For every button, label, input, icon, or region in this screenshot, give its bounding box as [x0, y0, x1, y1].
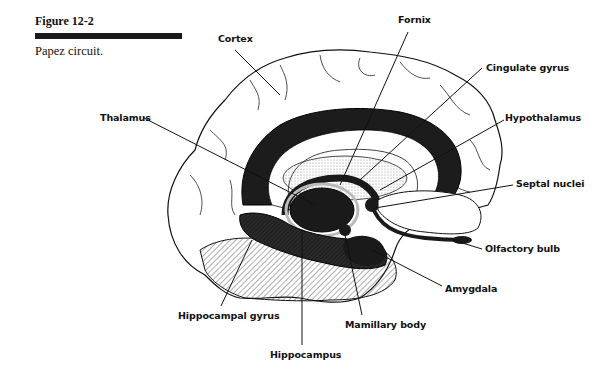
label-mamillary-body: Mamillary body [345, 319, 426, 330]
label-cortex: Cortex [218, 33, 253, 44]
mamillary-body [339, 224, 351, 236]
brain-diagram [0, 0, 601, 381]
label-hippocampal-gyrus: Hippocampal gyrus [178, 310, 279, 321]
label-hippocampus: Hippocampus [270, 349, 341, 360]
label-thalamus: Thalamus [100, 112, 151, 123]
label-amygdala: Amygdala [445, 283, 497, 294]
label-olfactory-bulb: Olfactory bulb [485, 243, 560, 254]
label-fornix: Fornix [398, 14, 431, 25]
label-hypothalamus: Hypothalamus [505, 112, 581, 123]
label-septal-nuclei: Septal nuclei [516, 178, 584, 189]
label-cingulate-gyrus: Cingulate gyrus [486, 62, 569, 73]
